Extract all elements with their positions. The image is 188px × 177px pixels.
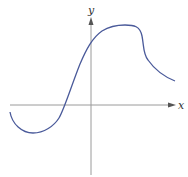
- x-axis-label: x: [178, 99, 185, 112]
- y-axis-label: y: [87, 4, 95, 17]
- function-graph: x y: [0, 0, 188, 177]
- y-axis-arrow-icon: [89, 17, 94, 25]
- x-axis-arrow-icon: [168, 103, 176, 108]
- function-curve: [10, 25, 175, 133]
